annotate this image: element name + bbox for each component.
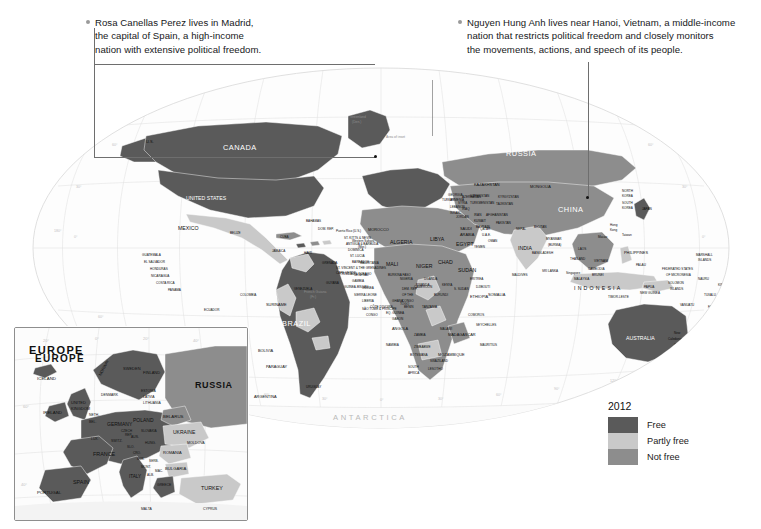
svg-text:THAILAND: THAILAND xyxy=(570,257,586,261)
svg-text:COSTA RICA: COSTA RICA xyxy=(156,281,175,285)
svg-text:150°: 150° xyxy=(660,371,668,375)
svg-text:U.A.E.: U.A.E. xyxy=(482,233,491,237)
svg-text:AFGHANISTAN: AFGHANISTAN xyxy=(486,213,508,217)
svg-text:180°: 180° xyxy=(54,229,62,233)
svg-text:RUSSIA: RUSSIA xyxy=(506,149,537,158)
svg-text:MARSHALL: MARSHALL xyxy=(696,253,713,257)
svg-text:French Guiana: French Guiana xyxy=(304,290,327,294)
svg-text:CANADA: CANADA xyxy=(223,143,257,152)
svg-text:0°: 0° xyxy=(74,235,78,239)
svg-text:SLOVAKIA: SLOVAKIA xyxy=(141,429,157,433)
annotation-madrid-line-3: nation with extensive political freedom. xyxy=(95,43,336,56)
legend-swatch-not-free xyxy=(608,449,638,465)
svg-text:MAC.: MAC. xyxy=(155,469,163,473)
svg-text:S. SUDAN: S. SUDAN xyxy=(454,287,469,291)
svg-text:COMOROS: COMOROS xyxy=(468,313,484,317)
inset-title: EUROPE xyxy=(29,344,84,356)
svg-text:TUVALU: TUVALU xyxy=(704,293,716,297)
svg-text:ESTONIA: ESTONIA xyxy=(141,389,157,393)
svg-text:NEW GUINEA: NEW GUINEA xyxy=(640,291,661,295)
svg-text:GABON: GABON xyxy=(392,317,403,321)
svg-text:SERB.: SERB. xyxy=(149,459,159,463)
svg-text:SWEDEN: SWEDEN xyxy=(123,366,141,371)
svg-text:IRELAND: IRELAND xyxy=(43,410,62,415)
svg-text:BAHAMAS: BAHAMAS xyxy=(306,219,321,223)
svg-text:AFRICA: AFRICA xyxy=(408,371,420,375)
svg-text:SWITZ.: SWITZ. xyxy=(111,439,123,443)
svg-text:HONDURAS: HONDURAS xyxy=(150,267,168,271)
svg-text:BOTSWANA: BOTSWANA xyxy=(410,353,429,357)
inset-area-box xyxy=(432,80,433,136)
svg-text:60°: 60° xyxy=(112,143,118,147)
svg-text:FRANCE: FRANCE xyxy=(93,451,116,457)
svg-text:KENYA: KENYA xyxy=(442,283,453,287)
svg-text:SAUDI: SAUDI xyxy=(460,226,472,231)
legend-label-not-free: Not free xyxy=(647,452,680,462)
annotation-hanoi-line-3: the movements, actions, and speech of it… xyxy=(467,43,748,56)
svg-text:MOROCCO: MOROCCO xyxy=(368,227,389,232)
legend-item-not-free: Not free xyxy=(608,449,748,465)
svg-text:ALB.: ALB. xyxy=(147,473,154,477)
svg-text:GUYANA: GUYANA xyxy=(326,281,340,285)
annotation-madrid-line-2: the capital of Spain, a high-income xyxy=(95,29,336,42)
svg-text:LIBERIA: LIBERIA xyxy=(362,299,375,303)
svg-text:JAMAICA: JAMAICA xyxy=(272,249,286,253)
svg-text:40°: 40° xyxy=(193,338,199,343)
annotation-madrid-line-1: Rosa Canellas Perez lives in Madrid, xyxy=(95,16,336,29)
svg-text:CONGO: CONGO xyxy=(366,313,378,317)
svg-text:Taiwan: Taiwan xyxy=(622,233,632,237)
svg-text:URUGUAY: URUGUAY xyxy=(306,385,321,389)
svg-text:INDIA: INDIA xyxy=(518,245,532,251)
svg-text:BRAZIL: BRAZIL xyxy=(282,319,311,328)
svg-text:30°: 30° xyxy=(438,397,444,401)
svg-text:FEDERATED STATES: FEDERATED STATES xyxy=(662,267,693,271)
svg-text:GUATEMALA: GUATEMALA xyxy=(142,253,162,257)
svg-text:VANUATU: VANUATU xyxy=(680,303,694,307)
svg-text:MAURITIUS: MAURITIUS xyxy=(480,343,497,347)
svg-text:BEL.: BEL. xyxy=(89,420,96,424)
svg-text:DENMARK: DENMARK xyxy=(101,393,119,397)
svg-text:ITALY: ITALY xyxy=(129,474,141,479)
svg-text:ISLANDS: ISLANDS xyxy=(698,258,711,262)
svg-text:MALI: MALI xyxy=(386,261,398,267)
legend-item-free: Free xyxy=(608,417,748,433)
svg-text:NICARAGUA: NICARAGUA xyxy=(151,274,170,278)
svg-text:60°: 60° xyxy=(496,393,502,397)
europe-inset-map: EUROPE ICELAND IRELAND UNITED KINGDOM NO… xyxy=(14,327,248,521)
svg-text:CAMBODIA: CAMBODIA xyxy=(588,267,605,271)
svg-text:BELIZE: BELIZE xyxy=(230,231,241,235)
svg-text:SEYCHELLES: SEYCHELLES xyxy=(476,323,496,327)
svg-text:MOLDOVA: MOLDOVA xyxy=(187,441,205,445)
svg-text:BURUNDI: BURUNDI xyxy=(434,293,448,297)
svg-text:IRAN: IRAN xyxy=(474,213,481,217)
legend-year: 2012 xyxy=(608,400,748,412)
svg-text:PAKISTAN: PAKISTAN xyxy=(496,221,511,225)
svg-text:PARAGUAY: PARAGUAY xyxy=(266,364,287,369)
svg-text:UGANDA: UGANDA xyxy=(424,277,438,281)
svg-text:TURKEY: TURKEY xyxy=(201,485,223,491)
svg-text:POLAND: POLAND xyxy=(133,417,154,423)
svg-text:0°: 0° xyxy=(380,398,384,402)
svg-text:SOMALIA: SOMALIA xyxy=(488,292,506,297)
legend-label-partly-free: Partly free xyxy=(647,436,689,446)
marker-madrid xyxy=(374,155,377,158)
svg-text:ERITREA: ERITREA xyxy=(470,277,484,281)
label-area-of-inset: Area of inset xyxy=(386,135,405,139)
svg-text:LATVIA: LATVIA xyxy=(143,395,155,399)
svg-text:Hong: Hong xyxy=(610,223,618,227)
legend-items: Free Partly free Not free xyxy=(608,417,748,465)
annotation-hanoi-line-2: nation that restricts political freedom … xyxy=(467,29,748,42)
svg-text:BRUNEI: BRUNEI xyxy=(592,273,604,277)
legend-swatch-partly-free xyxy=(608,433,638,449)
svg-text:SÃO TOMÉ & PRÍNCIPE: SÃO TOMÉ & PRÍNCIPE xyxy=(362,306,397,311)
svg-text:RWANDA: RWANDA xyxy=(416,283,431,287)
svg-text:LUX.: LUX. xyxy=(91,437,99,441)
svg-text:ALGERIA: ALGERIA xyxy=(390,239,413,245)
annotation-bullet-icon xyxy=(458,20,462,24)
svg-text:EQ. GUINEA: EQ. GUINEA xyxy=(386,311,405,315)
svg-text:TAJIKISTAN: TAJIKISTAN xyxy=(496,202,513,206)
svg-text:(Fr.): (Fr.) xyxy=(310,295,316,299)
svg-text:VIETNAM: VIETNAM xyxy=(594,259,608,263)
svg-text:LIBYA: LIBYA xyxy=(430,236,445,242)
svg-text:ECUADOR: ECUADOR xyxy=(204,308,220,312)
